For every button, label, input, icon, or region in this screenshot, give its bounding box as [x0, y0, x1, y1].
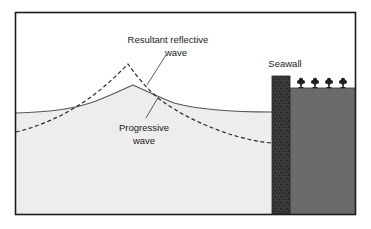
figure-root: Resultant reflective wave Progressive wa… [0, 0, 371, 229]
seawall-structure [272, 76, 290, 214]
seawall-label: Seawall [268, 58, 301, 69]
progressive-wave-label-line1: Progressive [119, 122, 169, 133]
land-mass [290, 88, 355, 214]
progressive-wave-label-line2: wave [132, 135, 155, 146]
land-fill [290, 88, 355, 214]
resultant-wave-label-line1: Resultant reflective [128, 34, 209, 45]
seawall-body [272, 76, 290, 214]
seawall-wave-diagram: Resultant reflective wave Progressive wa… [0, 0, 371, 229]
resultant-wave-label-line2: wave [164, 47, 187, 58]
